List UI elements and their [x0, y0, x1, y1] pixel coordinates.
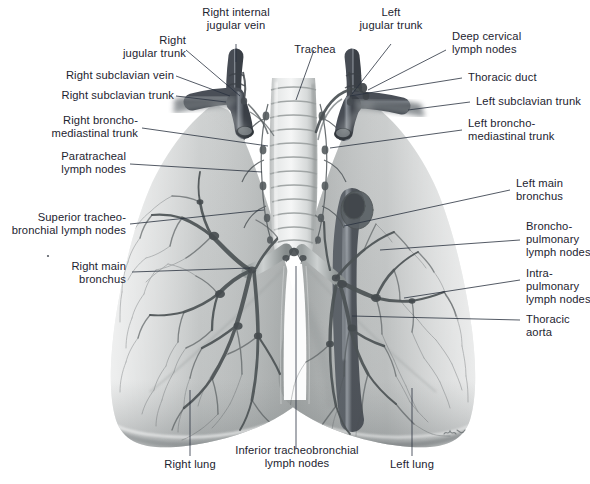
label-right-internal-jugular-vein: Right internal jugular vein: [158, 6, 314, 32]
label-deep-cervical-lymph-nodes: Deep cervical lymph nodes: [452, 30, 588, 56]
label-bronchopulmonary-lymph-nodes: Broncho- pulmonary lymph nodes: [526, 220, 590, 260]
label-right-lung: Right lung: [150, 458, 230, 471]
label-left-jugular-trunk: Left jugular trunk: [333, 6, 449, 32]
anatomy-figure: Right internal jugular vein Right jugula…: [0, 0, 590, 484]
trachea: [270, 78, 318, 252]
label-left-main-bronchus: Left main bronchus: [516, 177, 590, 203]
dot-artifact: [47, 255, 49, 257]
label-right-subclavian-vein: Right subclavian vein: [24, 69, 174, 82]
label-left-lung: Left lung: [376, 458, 448, 471]
label-right-main-bronchus: Right main bronchus: [20, 260, 126, 286]
label-thoracic-aorta: Thoracic aorta: [526, 313, 590, 339]
label-paratracheal-lymph-nodes: Paratracheal lymph nodes: [10, 150, 126, 176]
label-left-bronchomediastinal-trunk: Left broncho- mediastinal trunk: [468, 117, 590, 143]
label-right-subclavian-trunk: Right subclavian trunk: [20, 89, 174, 102]
label-right-bronchomediastinal-trunk: Right broncho- mediastinal trunk: [10, 114, 138, 140]
label-intrapulmonary-lymph-nodes: Intra- pulmonary lymph nodes: [526, 267, 590, 307]
label-superior-tracheobronchial-lymph-nodes: Superior tracheo- bronchial lymph nodes: [6, 211, 126, 237]
label-thoracic-duct: Thoracic duct: [468, 71, 588, 84]
label-trachea: Trachea: [278, 43, 352, 56]
label-inferior-tracheobronchial-lymph-nodes: Inferior tracheobronchial lymph nodes: [222, 444, 372, 470]
label-left-subclavian-trunk: Left subclavian trunk: [476, 95, 590, 108]
label-right-jugular-trunk: Right jugular trunk: [56, 34, 186, 60]
